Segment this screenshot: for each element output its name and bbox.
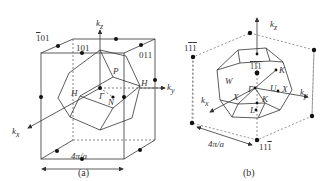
point-label-L: L	[250, 106, 255, 115]
panel-b-scale-arrow	[197, 127, 252, 145]
caption-a: (a)	[78, 168, 89, 178]
point-label-P: P	[113, 67, 119, 76]
axis-kz-label-b: kz	[270, 20, 277, 32]
point-label-K-top: K	[279, 66, 285, 75]
axis-kx-label-a: kx	[12, 127, 20, 139]
point-label-H-right: H	[141, 79, 148, 88]
point-label-N: N	[108, 98, 114, 107]
scale-label-a: 4π/a	[71, 152, 87, 161]
point-label-bar101: 101	[36, 34, 50, 43]
point-label-011: 011	[139, 51, 152, 60]
point-label-X-left: X	[233, 93, 239, 102]
point-label-101: 101	[76, 44, 90, 53]
panel-a-cube	[41, 39, 155, 159]
point-label-111-center: 111	[250, 63, 261, 71]
point-label-W: W	[225, 77, 233, 86]
point-label-K-mid: K	[262, 95, 268, 104]
scale-label-b: 4π/a	[208, 140, 224, 149]
point-label-H-left: H	[71, 89, 78, 98]
axis-kz-label-a: kz	[96, 19, 103, 31]
axis-ky-label-a: ky	[167, 83, 175, 95]
caption-b: (b)	[243, 168, 255, 178]
brillouin-zone-figure: kz 101 101 011 P H H Γ N ky kx 4π/a (a) …	[0, 0, 331, 181]
point-label-U: U	[270, 84, 277, 93]
point-label-1bar1bar1: 111	[184, 44, 197, 53]
point-label-gamma-a: Γ	[99, 92, 104, 101]
point-label-gamma-b: Γ	[248, 85, 253, 94]
point-label-X-right: X	[282, 85, 288, 94]
axis-kx-label-b: kx	[201, 96, 209, 108]
axis-ky-label-b: ky	[300, 88, 308, 100]
point-label-111bar-bottom: 111	[259, 143, 272, 152]
